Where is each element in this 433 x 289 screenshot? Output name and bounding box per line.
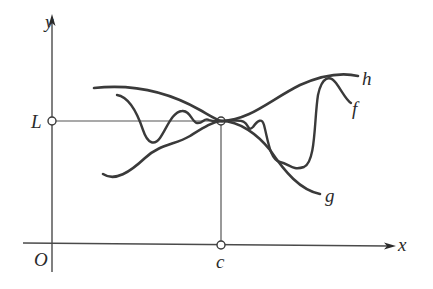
diagram-graphics (0, 0, 433, 289)
y-axis-label: y (45, 12, 53, 31)
x-axis (23, 243, 388, 246)
x-axis-label: x (398, 235, 406, 254)
curve-g-label: g (325, 186, 335, 205)
c-point-marker (217, 241, 225, 249)
origin-label: O (34, 250, 48, 269)
curve-g (103, 121, 320, 194)
curve-h-label: h (362, 69, 372, 88)
limit-label: L (31, 112, 42, 131)
c-label: c (216, 252, 224, 271)
curve-f-label: f (352, 99, 357, 118)
squeeze-theorem-diagram: y x O L c h f g (0, 0, 433, 289)
limit-point-marker (48, 117, 56, 125)
